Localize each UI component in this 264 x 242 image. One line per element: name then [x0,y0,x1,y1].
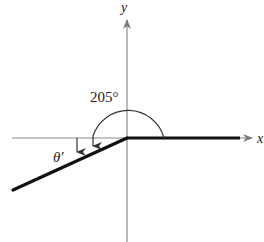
y-axis-label: y [119,0,128,15]
terminal-side-ray [13,138,127,190]
angle-arc-205 [93,110,164,146]
reference-angle-label: θ′ [53,149,64,165]
angle-label-205: 205° [90,89,119,105]
angle-diagram: y x 205° θ′ [0,0,264,242]
x-axis-label: x [256,131,264,146]
